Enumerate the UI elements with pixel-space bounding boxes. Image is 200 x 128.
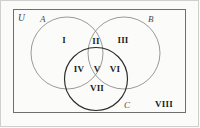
circle-set-b [88,17,160,89]
region-label-v: V [94,65,101,74]
circle-set-a [31,17,103,89]
region-label-i: I [62,36,66,45]
region-label-viii: VIII [155,100,173,109]
region-label-vi: VI [110,65,120,74]
set-label-a: A [40,15,46,24]
venn-diagram-figure: U A B C I II III IV V VI VII VIII [0,0,200,128]
region-label-iii: III [117,36,128,45]
region-label-vii: VII [90,84,104,93]
circle-set-c [65,48,128,111]
set-label-c: C [124,101,130,110]
set-label-b: B [148,15,154,24]
universal-set-label: U [18,14,25,24]
region-label-iv: IV [74,65,84,74]
region-label-ii: II [92,37,99,46]
